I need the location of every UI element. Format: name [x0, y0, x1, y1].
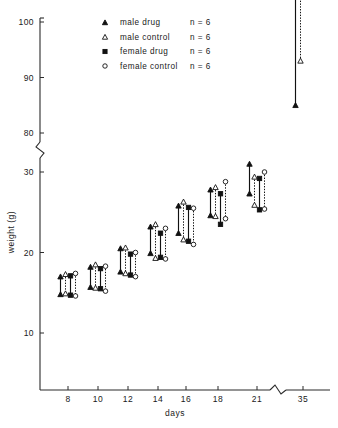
data-point-marker — [223, 179, 228, 184]
data-point-marker — [68, 274, 72, 278]
data-point-marker — [223, 216, 228, 221]
data-point-marker — [252, 174, 257, 179]
legend-label: male control — [120, 33, 170, 42]
data-point-marker — [257, 208, 261, 212]
x-tick-label: 8 — [65, 394, 70, 404]
chart-legend: male drugn = 6male controln = 6female dr… — [102, 18, 210, 71]
data-point-marker — [98, 266, 102, 270]
data-point-marker — [128, 273, 132, 277]
data-point-marker — [88, 284, 93, 289]
data-point-marker — [133, 250, 138, 255]
data-point-marker — [128, 252, 132, 256]
series-male-control — [63, 0, 303, 296]
x-tick-label: 21 — [252, 394, 262, 404]
data-point-marker — [213, 214, 218, 219]
y-tick-label: 100 — [19, 17, 34, 27]
data-point-marker — [186, 239, 190, 243]
legend-count: n = 6 — [190, 18, 211, 27]
data-point-marker — [257, 176, 261, 180]
y-tick-label: 10 — [24, 328, 34, 338]
data-point-marker — [158, 255, 162, 259]
data-point-marker — [191, 206, 196, 211]
data-point-marker — [73, 294, 78, 299]
x-axis-title: days — [165, 408, 185, 418]
data-point-marker — [191, 242, 196, 247]
legend-label: male drug — [120, 18, 160, 27]
data-point-marker — [247, 161, 252, 166]
data-point-marker — [102, 34, 107, 39]
data-point-marker — [186, 205, 190, 209]
data-series-group — [58, 0, 313, 298]
legend-count: n = 6 — [190, 47, 211, 56]
data-point-marker — [213, 185, 218, 190]
data-point-marker — [63, 291, 68, 296]
data-point-marker — [118, 269, 123, 274]
data-point-marker — [181, 199, 186, 204]
data-point-marker — [262, 170, 267, 175]
data-point-marker — [103, 289, 108, 294]
growth-weight-chart: 1020308090100 810121416182135 male drugn… — [0, 0, 338, 428]
data-point-marker — [181, 237, 186, 242]
data-point-marker — [158, 231, 162, 235]
x-tick-label: 14 — [153, 394, 163, 404]
data-point-marker — [153, 222, 158, 227]
data-point-marker — [68, 293, 72, 297]
legend-label: female drug — [120, 47, 168, 56]
data-point-marker — [247, 191, 252, 196]
x-tick-label: 10 — [93, 394, 103, 404]
data-point-marker — [163, 257, 168, 262]
data-point-marker — [93, 285, 98, 290]
data-point-marker — [103, 49, 107, 53]
data-point-marker — [148, 251, 153, 256]
data-point-marker — [218, 192, 222, 196]
series-female-control — [73, 0, 313, 298]
data-point-marker — [98, 287, 102, 291]
x-tick-label: 12 — [123, 394, 133, 404]
legend-count: n = 6 — [190, 62, 211, 71]
x-axis: 810121416182135 — [40, 385, 330, 404]
data-point-marker — [153, 255, 158, 260]
x-tick-label: 35 — [298, 394, 308, 404]
y-axis-title: weight (g) — [6, 211, 16, 254]
data-point-marker — [63, 272, 68, 277]
legend-count: n = 6 — [190, 33, 211, 42]
data-point-marker — [103, 264, 108, 269]
y-tick-label: 20 — [24, 248, 34, 258]
data-point-marker — [176, 230, 181, 235]
series-male-drug — [58, 0, 298, 297]
series-female-drug — [68, 0, 307, 297]
data-point-marker — [218, 222, 222, 226]
data-point-marker — [123, 271, 128, 276]
data-point-marker — [93, 262, 98, 267]
y-tick-label: 90 — [24, 73, 34, 83]
data-point-marker — [208, 213, 213, 218]
legend-label: female control — [120, 62, 178, 71]
data-point-marker — [163, 226, 168, 231]
data-point-marker — [133, 274, 138, 279]
data-point-marker — [262, 207, 267, 212]
x-tick-label: 18 — [213, 394, 223, 404]
data-point-marker — [102, 20, 107, 25]
data-point-marker — [73, 271, 78, 276]
data-point-marker — [103, 64, 107, 68]
x-tick-label: 16 — [181, 394, 191, 404]
y-axis: 1020308090100 — [19, 17, 44, 390]
chart-canvas: 1020308090100 810121416182135 male drugn… — [0, 0, 338, 428]
data-point-marker — [123, 245, 128, 250]
y-tick-label: 30 — [24, 167, 34, 177]
y-tick-label: 80 — [24, 128, 34, 138]
data-point-marker — [176, 203, 181, 208]
data-point-marker — [298, 58, 303, 63]
data-point-marker — [252, 202, 257, 207]
data-point-marker — [293, 103, 298, 108]
